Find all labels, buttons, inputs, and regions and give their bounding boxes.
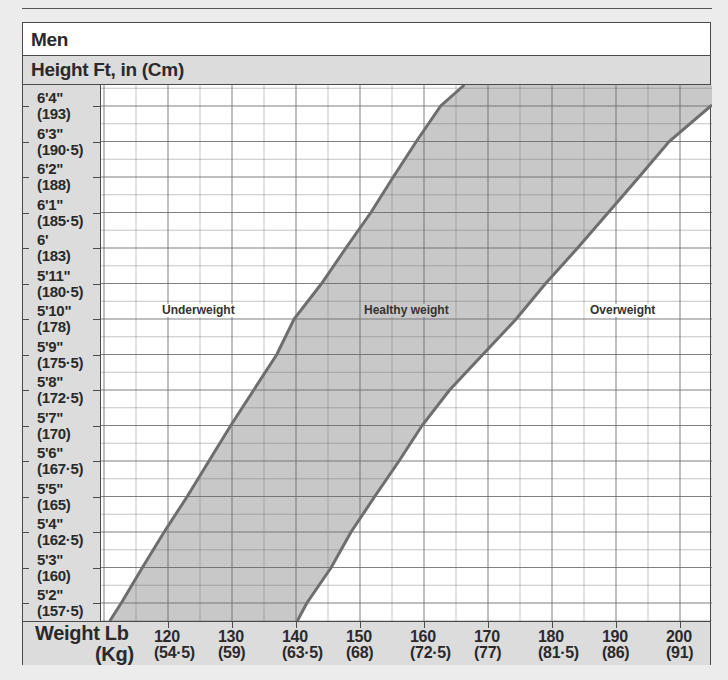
x-tick-label-lb: 170 (474, 629, 501, 645)
plot-area (101, 85, 712, 621)
y-tick-mark (93, 568, 101, 569)
y-tick-label-ft: 5'3" (37, 552, 71, 568)
y-tick-mark (23, 426, 29, 427)
y-tick-mark (93, 461, 101, 462)
y-tick-label: 5'7"(170) (37, 410, 71, 442)
x-axis-title-kg: (Kg) (35, 644, 134, 665)
y-tick-label-cm: (180·5) (37, 284, 83, 300)
y-tick-mark (93, 248, 101, 249)
y-tick-label: 5'3"(160) (37, 552, 71, 584)
x-tick-label-lb: 200 (666, 629, 693, 645)
y-tick-label-ft: 6' (37, 232, 71, 248)
y-tick-label-cm: (160) (37, 568, 71, 584)
y-tick-mark (93, 532, 101, 533)
y-tick-label: 5'4"(162·5) (37, 516, 83, 548)
x-tick-label: 130(59) (218, 629, 245, 661)
y-tick-label-ft: 6'3" (37, 126, 83, 142)
x-tick-label-kg: (59) (218, 645, 245, 661)
y-tick-mark (93, 390, 101, 391)
x-tick-label-kg: (68) (346, 645, 373, 661)
y-tick-mark (23, 142, 29, 143)
y-tick-mark (93, 142, 101, 143)
x-tick-label-kg: (86) (602, 645, 629, 661)
y-tick-label-cm: (188) (37, 177, 71, 193)
y-tick-mark (23, 355, 29, 356)
chart-title: Men (31, 29, 68, 51)
y-tick-mark (23, 106, 29, 107)
x-tick-label-lb: 190 (602, 629, 629, 645)
y-tick-mark (93, 319, 101, 320)
y-tick-label-ft: 5'10" (37, 303, 71, 319)
y-tick-mark (93, 355, 101, 356)
y-tick-label-ft: 5'6" (37, 445, 83, 461)
x-axis-title: Weight Lb (Kg) (35, 623, 134, 665)
x-tick-label-kg: (81·5) (538, 645, 579, 661)
y-tick-mark (93, 603, 101, 604)
y-tick-label: 5'9"(175·5) (37, 339, 83, 371)
y-tick-label-ft: 6'1" (37, 197, 83, 213)
y-axis-title-row: Height Ft, in (Cm) (23, 56, 710, 85)
y-tick-label-cm: (170) (37, 426, 71, 442)
x-tick-label-lb: 140 (282, 629, 323, 645)
y-tick-mark (93, 284, 101, 285)
y-tick-label: 6'3"(190·5) (37, 126, 83, 158)
y-tick-label-ft: 5'2" (37, 587, 83, 603)
y-tick-label: 6'4"(193) (37, 90, 71, 122)
x-tick-label-kg: (54·5) (154, 645, 195, 661)
y-axis-title: Height Ft, in (Cm) (31, 59, 184, 81)
x-tick-label-lb: 120 (154, 629, 195, 645)
x-tick-label-lb: 160 (410, 629, 451, 645)
y-tick-mark (93, 497, 101, 498)
y-tick-label-ft: 5'4" (37, 516, 83, 532)
x-tick-label-lb: 180 (538, 629, 579, 645)
x-axis-labels: Weight Lb (Kg) 120(54·5)130(59)140(63·5)… (23, 621, 710, 665)
y-tick-label-cm: (185·5) (37, 213, 83, 229)
y-tick-label-cm: (167·5) (37, 461, 83, 477)
y-tick-label-cm: (157·5) (37, 603, 83, 619)
y-tick-mark (23, 532, 29, 533)
y-tick-label-ft: 5'7" (37, 410, 71, 426)
y-tick-label-ft: 6'2" (37, 161, 71, 177)
y-tick-mark (23, 319, 29, 320)
y-tick-label-cm: (165) (37, 497, 71, 513)
chart-frame: Men Height Ft, in (Cm) 6'4"(193)6'3"(190… (22, 22, 711, 665)
y-tick-label: 5'5"(165) (37, 481, 71, 513)
y-tick-mark (23, 213, 29, 214)
x-tick-label: 200(91) (666, 629, 693, 661)
y-tick-mark (23, 284, 29, 285)
y-tick-label: 5'2"(157·5) (37, 587, 83, 619)
x-tick-label: 120(54·5) (154, 629, 195, 661)
x-tick-label: 180(81·5) (538, 629, 579, 661)
x-tick-label: 150(68) (346, 629, 373, 661)
x-tick-label-kg: (91) (666, 645, 693, 661)
y-tick-mark (23, 497, 29, 498)
x-axis-title-lb: Weight Lb (35, 622, 129, 644)
y-tick-label-cm: (175·5) (37, 355, 83, 371)
y-tick-label-cm: (193) (37, 106, 71, 122)
top-rule (22, 8, 712, 9)
y-tick-mark (23, 390, 29, 391)
y-tick-label: 5'6"(167·5) (37, 445, 83, 477)
y-tick-label-ft: 6'4" (37, 90, 71, 106)
y-tick-label: 5'11"(180·5) (37, 268, 83, 300)
y-tick-label: 5'8"(172·5) (37, 374, 83, 406)
y-tick-label-ft: 5'5" (37, 481, 71, 497)
y-tick-label: 5'10"(178) (37, 303, 71, 335)
y-tick-label-ft: 5'11" (37, 268, 83, 284)
y-tick-label-cm: (190·5) (37, 142, 83, 158)
x-tick-label-kg: (72·5) (410, 645, 451, 661)
x-tick-label-lb: 150 (346, 629, 373, 645)
y-tick-label-ft: 5'9" (37, 339, 83, 355)
y-tick-label: 6'1"(185·5) (37, 197, 83, 229)
x-tick-label: 190(86) (602, 629, 629, 661)
y-tick-label: 6'2"(188) (37, 161, 71, 193)
x-tick-label-kg: (77) (474, 645, 501, 661)
y-tick-mark (23, 603, 29, 604)
x-tick-label-kg: (63·5) (282, 645, 323, 661)
y-tick-mark (23, 177, 29, 178)
y-tick-label-cm: (178) (37, 319, 71, 335)
y-tick-label-cm: (183) (37, 248, 71, 264)
y-tick-label-cm: (162·5) (37, 532, 83, 548)
y-tick-mark (23, 461, 29, 462)
region-label-overweight: Overweight (587, 304, 658, 317)
